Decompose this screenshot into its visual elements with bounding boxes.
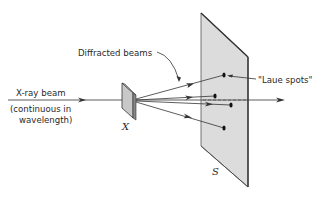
laue-spots-label: "Laue spots" [258,75,313,85]
screen-label: S [212,166,219,177]
incident-beam-label-2: (continuous in [10,104,71,114]
crystal-label: X [121,121,130,132]
incident-beam [8,98,124,103]
incident-beam-label-3: wavelength) [19,115,72,125]
crystal-x [122,83,136,120]
diffracted-beams-label: Diffracted beams [78,48,153,58]
laue-diffraction-diagram: X-ray beam (continuous in wavelength) Di… [0,0,325,198]
incident-beam-label-1: X-ray beam [16,88,66,98]
